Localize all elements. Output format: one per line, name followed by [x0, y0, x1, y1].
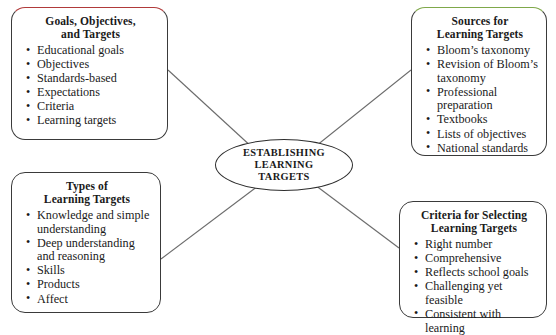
list-item: Lists of objectives: [426, 128, 538, 142]
node-goals-objectives-targets[interactable]: Goals, Objectives, and Targets Education…: [11, 7, 168, 140]
hub-line-1: ESTABLISHING: [243, 147, 325, 159]
node-criteria-for-selecting-learning-targets[interactable]: Criteria for Selecting Learning Targets …: [399, 201, 547, 318]
connector-criteria-to-hub: [315, 185, 399, 248]
node-criteria-title: Criteria for Selecting Learning Targets: [410, 209, 538, 235]
list-item: Educational goals: [26, 44, 159, 58]
node-types-list: Knowledge and simple understanding Deep …: [22, 209, 152, 306]
list-item: Objectives: [26, 58, 159, 72]
node-goals-title: Goals, Objectives, and Targets: [22, 15, 159, 41]
connector-sources-to-hub: [316, 70, 411, 146]
list-item: Challenging yet feasible: [414, 280, 538, 307]
list-item: Professional preparation: [426, 86, 538, 113]
node-sources-for-learning-targets[interactable]: Sources for Learning Targets Bloom’s tax…: [411, 7, 547, 156]
hub-establishing-learning-targets[interactable]: ESTABLISHING LEARNING TARGETS: [215, 139, 353, 191]
list-item: Comprehensive: [414, 252, 538, 266]
hub-line-3: TARGETS: [258, 171, 309, 183]
list-item: Textbooks: [426, 113, 538, 127]
list-item: Knowledge and simple understanding: [26, 209, 152, 236]
node-goals-list: Educational goals Objectives Standards-b…: [22, 44, 159, 128]
list-item: Affect: [26, 293, 152, 307]
list-item: Skills: [26, 264, 152, 278]
connector-types-to-hub: [161, 186, 258, 259]
connector-goals-to-hub: [168, 70, 254, 149]
list-item: Criteria: [26, 100, 159, 114]
node-types-of-learning-targets[interactable]: Types of Learning Targets Knowledge and …: [11, 172, 161, 313]
node-sources-title: Sources for Learning Targets: [422, 15, 538, 41]
node-types-title: Types of Learning Targets: [22, 180, 152, 206]
list-item: Right number: [414, 238, 538, 252]
list-item: Products: [26, 278, 152, 292]
hub-line-2: LEARNING: [255, 159, 314, 171]
list-item: Deep understanding and reasoning: [26, 237, 152, 264]
node-sources-list: Bloom’s taxonomy Revision of Bloom’s tax…: [422, 44, 538, 155]
list-item: National standards: [426, 142, 538, 156]
list-item: Learning targets: [26, 114, 159, 128]
list-item: Reflects school goals: [414, 266, 538, 280]
list-item: Bloom’s taxonomy: [426, 44, 538, 58]
node-criteria-list: Right number Comprehensive Reflects scho…: [410, 238, 538, 335]
list-item: Expectations: [26, 86, 159, 100]
list-item: Revision of Bloom’s taxonomy: [426, 58, 538, 85]
list-item: Standards-based: [26, 72, 159, 86]
list-item: Consistent with learning: [414, 308, 538, 335]
